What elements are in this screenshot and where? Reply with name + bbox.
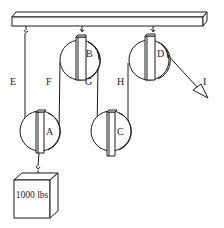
label-c: C — [117, 126, 124, 137]
rope-i — [165, 52, 208, 98]
label-i: I — [203, 76, 206, 87]
weight-label: 1000 lbs — [16, 190, 49, 200]
pulley-b — [60, 35, 100, 80]
pulley-c — [91, 110, 131, 156]
hook-b — [80, 26, 84, 32]
label-e: E — [10, 76, 16, 87]
pulley-diagram: 1000 lbs E F G H I B D A C — [0, 0, 224, 228]
label-b: B — [86, 48, 93, 59]
label-d: D — [157, 48, 164, 59]
label-f: F — [46, 76, 52, 87]
hook-e — [24, 26, 28, 32]
ceiling-beam — [12, 12, 207, 26]
label-a: A — [46, 126, 54, 137]
label-g: G — [85, 76, 92, 87]
label-h: H — [117, 76, 124, 87]
hook-d — [151, 26, 155, 32]
weight-box: 1000 lbs — [14, 173, 58, 218]
hook-box — [36, 153, 40, 174]
pulley-a — [20, 110, 60, 153]
